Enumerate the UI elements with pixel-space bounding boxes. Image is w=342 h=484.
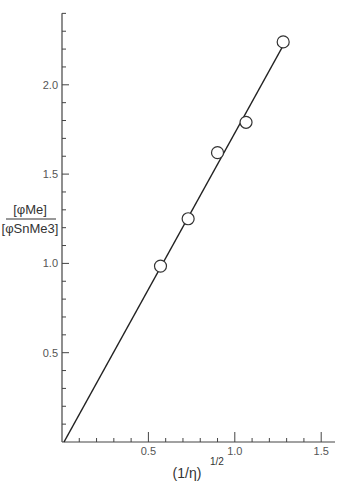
y-tick-label: 1.5: [43, 168, 58, 180]
x-label-base: (1/η): [173, 465, 202, 481]
x-tick-label: 1.0: [227, 445, 242, 457]
x-tick-label: 0.5: [141, 445, 156, 457]
data-point-circle: [154, 260, 166, 272]
y-label-denominator: [φSnMe3]: [2, 221, 59, 236]
chart: 0.51.01.52.0 0.51.01.5 [φMe] [φSnMe3] (1…: [0, 0, 342, 484]
x-label-exponent: 1/2: [210, 456, 224, 467]
x-tick-label: 1.5: [314, 445, 329, 457]
x-axis-label: (1/η) 1/2: [173, 456, 225, 481]
regression-line: [64, 46, 283, 442]
data-point-circle: [277, 36, 289, 48]
data-point-circle: [240, 116, 252, 128]
y-tick-label: 0.5: [43, 347, 58, 359]
y-label-numerator: [φMe]: [13, 202, 47, 217]
y-tick-label: 2.0: [43, 79, 58, 91]
x-axis: 0.51.01.5: [62, 432, 335, 457]
y-tick-label: 1.0: [43, 257, 58, 269]
fit-line: [64, 46, 283, 442]
data-point-circle: [182, 213, 194, 225]
data-point-circle: [212, 147, 224, 159]
y-axis-label: [φMe] [φSnMe3]: [2, 202, 59, 236]
